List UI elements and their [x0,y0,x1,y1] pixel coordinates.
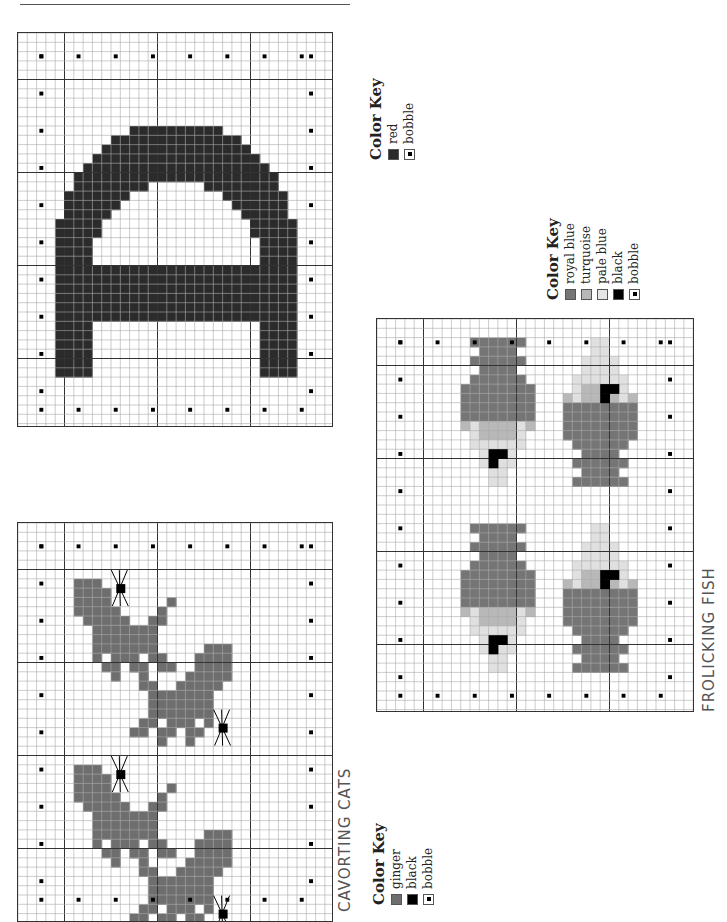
key-item-black: black [404,823,420,905]
swatch-ginger-icon [391,894,402,905]
letter-color-key: Color Key red bobble [367,78,417,160]
key-item-pale-blue: pale blue [594,218,610,300]
key-item-turquoise: turquoise [578,218,594,300]
swatch-royal-blue-icon [565,289,576,300]
key-title: Color Key [367,78,385,160]
swatch-black-icon [407,894,418,905]
frolicking-fish-chart [376,318,694,712]
header-rule [20,4,350,5]
cats-color-key: Color Key ginger black bobble [370,823,436,905]
key-title: Color Key [370,823,388,905]
fish-color-key: Color Key royal blue turquoise pale blue… [544,218,642,300]
bobble-icon [629,289,640,300]
swatch-black-icon [613,289,624,300]
letter-a-chart [17,32,333,427]
cavorting-cats-chart [17,522,333,922]
frolicking-fish-caption: FROLICKING FISH [700,567,718,712]
swatch-pale-blue-icon [597,289,608,300]
bobble-icon [404,149,415,160]
swatch-turquoise-icon [581,289,592,300]
key-item-royal-blue: royal blue [562,218,578,300]
key-item-red: red [385,78,401,160]
key-item-bobble: bobble [420,823,436,905]
key-item-ginger: ginger [388,823,404,905]
key-item-bobble: bobble [626,218,642,300]
swatch-red-icon [388,149,399,160]
key-item-black: black [610,218,626,300]
key-title: Color Key [544,218,562,300]
cavorting-cats-caption: CAVORTING CATS [336,768,354,912]
key-item-bobble: bobble [401,78,417,160]
bobble-icon [423,894,434,905]
